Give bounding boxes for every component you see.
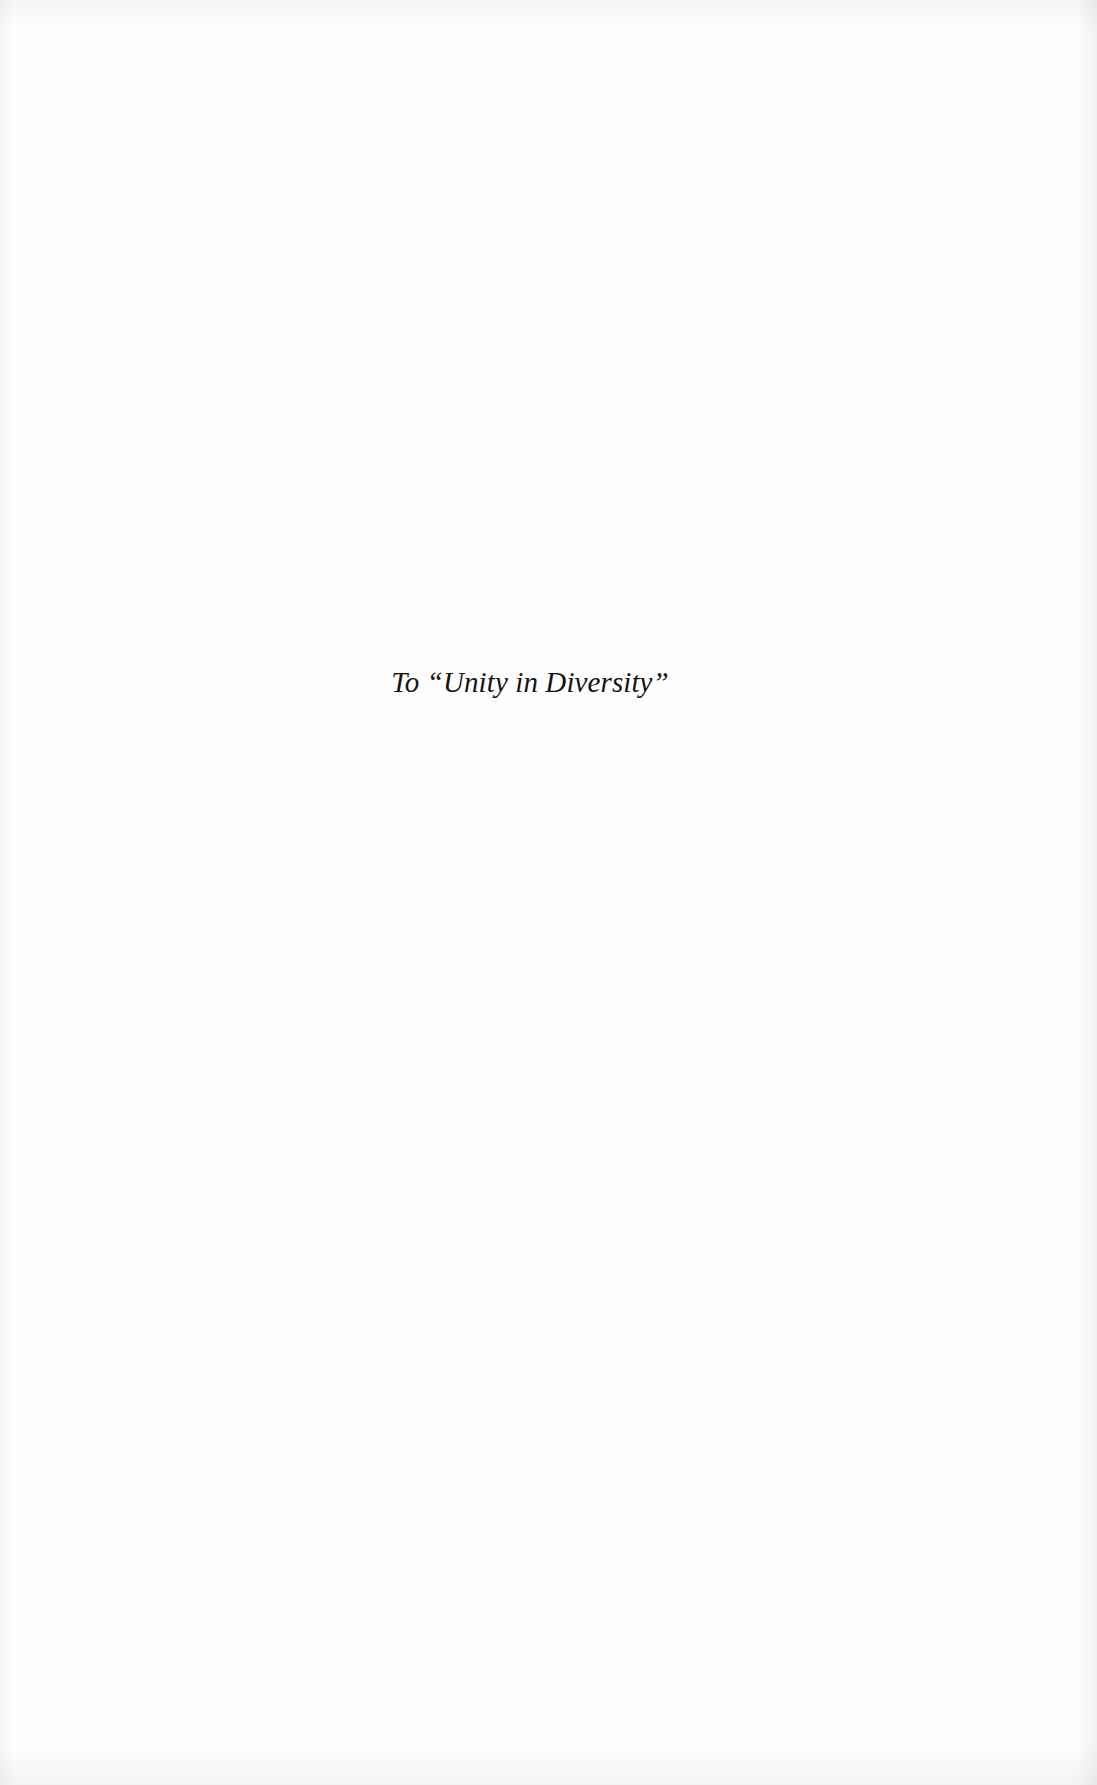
dedication-text: To “Unity in Diversity” [0,664,1060,700]
book-page: To “Unity in Diversity” [0,0,1097,1785]
